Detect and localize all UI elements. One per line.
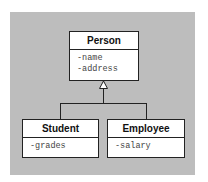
class-attributes: -name -address [70, 50, 138, 75]
attribute: -address [77, 64, 138, 75]
class-person[interactable]: Person -name -address [69, 31, 139, 81]
attribute: -grades [30, 141, 98, 152]
class-attributes: -grades [23, 138, 98, 152]
attribute: -name [77, 53, 138, 64]
class-name: Person [70, 32, 138, 50]
class-attributes: -salary [108, 138, 184, 152]
class-name: Employee [108, 120, 184, 138]
class-name: Student [23, 120, 98, 138]
class-employee[interactable]: Employee -salary [107, 119, 185, 158]
attribute: -salary [115, 141, 184, 152]
class-student[interactable]: Student -grades [22, 119, 99, 158]
